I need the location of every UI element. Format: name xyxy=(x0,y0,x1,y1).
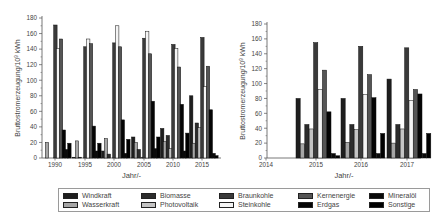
svg-text:80: 80 xyxy=(255,95,263,102)
bar-steinkohle xyxy=(363,95,367,158)
svg-text:20: 20 xyxy=(255,139,263,146)
bar-windkraft xyxy=(341,98,345,158)
svg-text:2010: 2010 xyxy=(166,161,181,168)
legend-item-biomasse: Biomasse xyxy=(141,191,191,200)
bar-photovoltaik xyxy=(400,129,404,158)
bar-steinkohle xyxy=(409,101,413,158)
legend-swatch xyxy=(141,202,156,208)
bar-photovoltaik xyxy=(309,129,313,158)
svg-text:60: 60 xyxy=(30,108,38,115)
svg-text:2014: 2014 xyxy=(259,161,274,168)
bar-steinkohle xyxy=(318,90,322,158)
bar-mineralöl xyxy=(331,154,335,158)
bar-erdgas xyxy=(209,110,212,158)
legend-item-braunkohle: Braunkohle xyxy=(219,191,273,200)
svg-text:60: 60 xyxy=(255,110,263,117)
bar-braunkohle xyxy=(314,43,318,158)
svg-text:180: 180 xyxy=(26,14,37,21)
legend-item-windkraft: Windkraft xyxy=(63,191,112,200)
legend-label: Erdgas xyxy=(317,201,339,208)
bar-sonstige xyxy=(157,137,160,158)
svg-text:20: 20 xyxy=(30,139,38,146)
svg-text:160: 160 xyxy=(251,35,262,42)
bar-biomasse xyxy=(137,149,140,158)
legend-label: Braunkohle xyxy=(238,192,273,199)
svg-text:2016: 2016 xyxy=(354,161,369,168)
bar-wasserkraft xyxy=(391,143,395,158)
bar-biomasse xyxy=(396,125,400,159)
bar-wasserkraft xyxy=(345,142,349,158)
svg-text:160: 160 xyxy=(26,30,37,37)
left-chart: 020406080100120140160180Bruttostromerzeu… xyxy=(14,14,222,180)
bar-wasserkraft xyxy=(75,141,78,158)
legend-swatch xyxy=(63,193,78,199)
svg-text:100: 100 xyxy=(251,80,262,87)
legend-label: Wasserkraft xyxy=(82,201,119,208)
bar-wasserkraft xyxy=(45,142,48,158)
svg-text:2005: 2005 xyxy=(137,161,152,168)
legend-swatch xyxy=(369,193,384,199)
bar-erdgas xyxy=(418,94,422,158)
svg-text:140: 140 xyxy=(251,50,262,57)
legend-item-erdgas: Erdgas xyxy=(298,200,339,209)
svg-text:1990: 1990 xyxy=(48,161,63,168)
bar-sonstige xyxy=(215,156,218,158)
bar-mineralöl xyxy=(376,154,380,158)
legend-swatch xyxy=(298,202,313,208)
bar-kernenergie xyxy=(322,70,326,158)
bar-kernenergie xyxy=(367,75,371,158)
legend-label: Biomasse xyxy=(160,192,191,199)
legend-item-photovoltaik: Photovoltaik xyxy=(141,200,198,209)
bar-sonstige xyxy=(381,133,385,158)
energy-charts: 020406080100120140160180Bruttostromerzeu… xyxy=(0,0,435,222)
chart-legend: Windkraft Biomasse Braunkohle Kernenergi… xyxy=(58,188,430,212)
bar-sonstige xyxy=(68,143,71,158)
svg-text:80: 80 xyxy=(30,92,38,99)
svg-text:180: 180 xyxy=(251,20,262,27)
svg-text:1995: 1995 xyxy=(78,161,93,168)
bar-erdgas xyxy=(180,104,183,158)
legend-swatch xyxy=(219,193,234,199)
x-axis-label: Jahr/- xyxy=(122,171,142,180)
svg-text:40: 40 xyxy=(30,123,38,130)
bar-braunkohle xyxy=(405,48,409,158)
bar-sonstige xyxy=(427,133,431,158)
legend-item-mineraloel: Mineralöl xyxy=(369,191,416,200)
bar-windkraft xyxy=(296,98,300,158)
legend-swatch xyxy=(298,193,313,199)
legend-item-wasserkraft: Wasserkraft xyxy=(63,200,119,209)
svg-text:2015: 2015 xyxy=(309,161,324,168)
legend-label: Kernenergie xyxy=(317,192,355,199)
bar-wasserkraft xyxy=(300,144,304,158)
svg-text:2015: 2015 xyxy=(195,161,210,168)
y-axis-label: Bruttostromerzeugung/109 kWh xyxy=(239,42,248,140)
x-axis-label: Jahr/- xyxy=(334,171,354,180)
legend-label: Windkraft xyxy=(82,192,112,199)
bar-sonstige xyxy=(98,143,101,158)
legend-label: Mineralöl xyxy=(388,192,416,199)
legend-item-sonstige: Sonstige xyxy=(369,200,415,209)
legend-label: Steinkohle xyxy=(238,201,271,208)
svg-text:120: 120 xyxy=(26,61,37,68)
bar-photovoltaik xyxy=(354,130,358,158)
legend-swatch xyxy=(63,202,78,208)
bar-biomasse xyxy=(305,125,309,159)
svg-text:2017: 2017 xyxy=(400,161,415,168)
bar-sonstige xyxy=(336,156,340,158)
bar-kernenergie xyxy=(413,90,417,158)
legend-item-kernenergie: Kernenergie xyxy=(298,191,355,200)
legend-swatch xyxy=(219,202,234,208)
bar-sonstige xyxy=(127,139,130,158)
legend-swatch xyxy=(369,202,384,208)
legend-swatch xyxy=(141,193,156,199)
bar-erdgas xyxy=(372,98,376,158)
y-axis-label: Bruttostromerzeugung/109 kWh xyxy=(14,39,23,137)
bar-erdgas xyxy=(327,112,331,158)
svg-text:0: 0 xyxy=(33,154,37,161)
svg-text:120: 120 xyxy=(251,65,262,72)
svg-text:140: 140 xyxy=(26,45,37,52)
bar-windkraft xyxy=(387,79,391,158)
svg-text:100: 100 xyxy=(26,77,37,84)
svg-text:40: 40 xyxy=(255,125,263,132)
legend-item-steinkohle: Steinkohle xyxy=(219,200,271,209)
